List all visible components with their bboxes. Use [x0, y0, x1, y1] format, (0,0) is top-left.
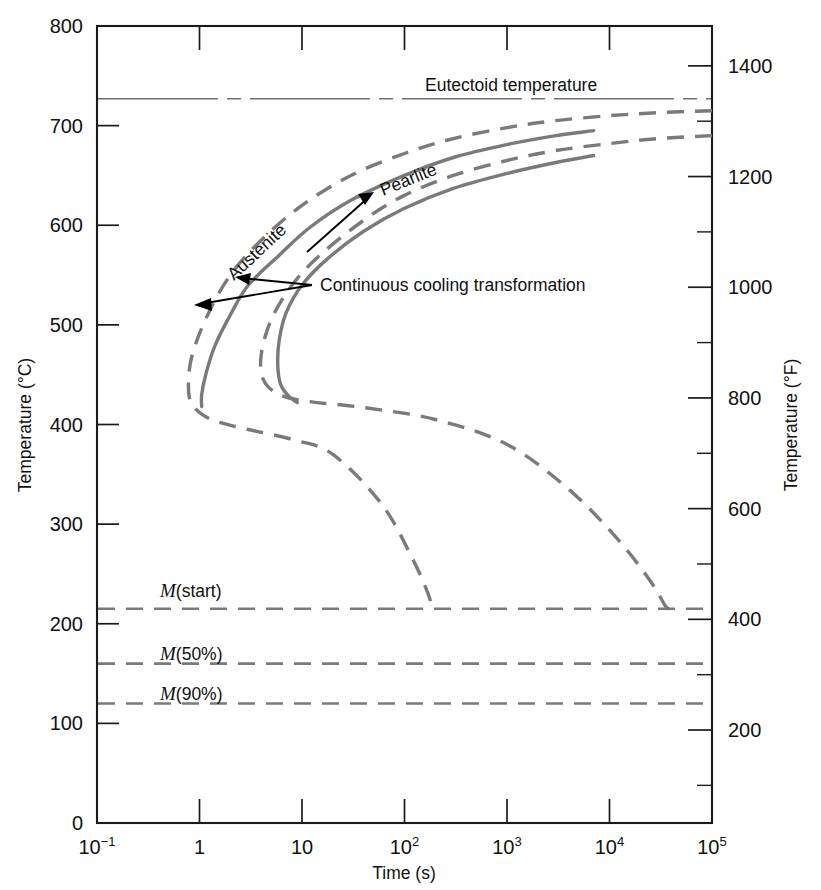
y-axis-right-title: Temperature (°F) — [781, 359, 801, 491]
eutectoid-temperature-label: Eutectoid temperature — [425, 75, 597, 95]
m-90-suffix: (90%) — [176, 684, 223, 704]
x-axis-title: Time (s) — [372, 863, 436, 883]
cct-diagram-svg: 8007006005004003002001000 14001200100080… — [0, 0, 821, 890]
m-50-label: M(50%) — [159, 643, 223, 664]
x-tick-label: 10 — [291, 836, 313, 858]
y-axis-right-tick-labels: 140012001000800600400200 — [728, 55, 773, 741]
y-left-tick-label: 200 — [50, 613, 83, 635]
y-right-tick-label: 1000 — [728, 276, 773, 298]
transformation-curve-1 — [261, 136, 712, 609]
y-left-tick-label: 800 — [50, 15, 83, 37]
y-left-tick-label: 400 — [50, 414, 83, 436]
x-tick-label: 102 — [390, 834, 419, 858]
y-right-tick-label: 400 — [728, 608, 761, 630]
y-right-tick-label: 1400 — [728, 55, 773, 77]
y-right-tick-label: 800 — [728, 387, 761, 409]
y-left-tick-label: 0 — [72, 812, 83, 834]
m-90-label: M(90%) — [159, 683, 223, 704]
y-right-tick-label: 1200 — [728, 166, 773, 188]
m-50-suffix: (50%) — [176, 644, 223, 664]
x-tick-label: 103 — [492, 834, 521, 858]
y-right-tick-label: 600 — [728, 498, 761, 520]
x-axis-tick-labels: 10−1110102103104105 — [78, 834, 726, 858]
cct-left-arrowhead — [194, 298, 212, 311]
y-left-tick-label: 500 — [50, 314, 83, 336]
m-start-suffix: (start) — [176, 581, 222, 601]
y-left-tick-label: 100 — [50, 712, 83, 734]
y-right-tick-label: 200 — [728, 719, 761, 741]
x-tick-label: 104 — [595, 834, 624, 858]
x-tick-label: 1 — [194, 836, 205, 858]
x-tick-label: 10−1 — [78, 834, 115, 858]
cct-diagram-figure: 8007006005004003002001000 14001200100080… — [0, 0, 821, 890]
y-left-tick-label: 600 — [50, 214, 83, 236]
y-left-tick-label: 300 — [50, 513, 83, 535]
y-axis-left-tick-labels: 8007006005004003002001000 — [50, 15, 83, 834]
pearlite-arrowhead — [358, 192, 374, 205]
m-start-label: M(start) — [159, 580, 222, 601]
y-axis-left-title: Temperature (°C) — [15, 358, 35, 492]
y-axis-right-ticks — [688, 66, 712, 786]
transformation-curve-0 — [188, 111, 712, 609]
transformation-curves-group — [188, 111, 712, 609]
m-90-symbol: M — [159, 683, 177, 704]
y-left-tick-label: 700 — [50, 115, 83, 137]
continuous-cooling-transformation-label: Continuous cooling transformation — [320, 275, 586, 295]
m-start-symbol: M — [159, 580, 177, 601]
m-50-symbol: M — [159, 643, 177, 664]
x-axis-top-ticks — [200, 26, 610, 50]
x-tick-label: 105 — [697, 834, 726, 858]
x-axis-ticks — [200, 799, 610, 823]
